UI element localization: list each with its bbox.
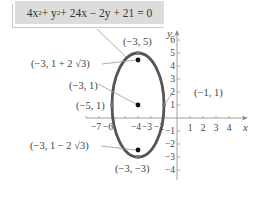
- label-top-vertex: (−3, 5): [123, 36, 152, 48]
- axes: −7 −6 −4 −3 −2 1 2 3 4 6 5 4 3 2 1 −1 −2…: [86, 27, 248, 180]
- ellipse-diagram: −7 −6 −4 −3 −2 1 2 3 4 6 5 4 3 2 1 −1 −2…: [0, 0, 266, 198]
- y-tick-labels: 6 5 4 3 2 1 −1 −2 −3 −4: [165, 35, 175, 175]
- x-tick-label: 2: [201, 123, 206, 133]
- points: [110, 51, 166, 159]
- label-center: (−3, 1): [69, 80, 98, 92]
- bottom-vertex-point: [136, 155, 140, 159]
- label-lower-focus: (−3, 1 − 2 √3): [30, 140, 89, 152]
- center-point: [136, 103, 141, 108]
- label-leaders: [98, 60, 172, 150]
- x-tick-label: 1: [188, 123, 193, 133]
- label-bottom-vertex: (−3, −3): [115, 163, 150, 175]
- x-tick-label: 4: [227, 123, 232, 133]
- label-right-covertex: (−1, 1): [194, 87, 223, 99]
- y-tick-label: 5: [170, 48, 175, 58]
- x-tick-label: 3: [214, 123, 219, 133]
- label-upper-focus: (−3, 1 + 2 √3): [31, 58, 90, 70]
- x-tick-label: −6: [103, 122, 113, 132]
- x-tick-label: −3: [142, 122, 152, 132]
- lower-focus-point: [136, 148, 141, 153]
- y-tick-label: −2: [165, 139, 175, 149]
- left-covertex-point: [110, 103, 114, 107]
- y-tick-label: 3: [170, 74, 175, 84]
- x-tick-label: −4: [131, 122, 141, 132]
- x-tick-label: −7: [91, 122, 101, 132]
- y-tick-label: −1: [165, 126, 175, 136]
- y-tick-label: −3: [165, 152, 175, 162]
- equation-leader-line: [97, 29, 126, 57]
- x-axis-label: x: [242, 121, 248, 133]
- y-tick-label: 1: [170, 100, 175, 110]
- y-tick-label: −4: [165, 165, 175, 175]
- top-vertex-point: [136, 51, 140, 55]
- y-axis-label: y: [166, 27, 172, 39]
- y-tick-label: 2: [170, 87, 175, 97]
- y-tick-label: 4: [170, 61, 175, 71]
- y-ticks: [177, 40, 180, 170]
- label-left-covertex: (−5, 1): [76, 100, 105, 112]
- upper-focus-point: [136, 58, 141, 63]
